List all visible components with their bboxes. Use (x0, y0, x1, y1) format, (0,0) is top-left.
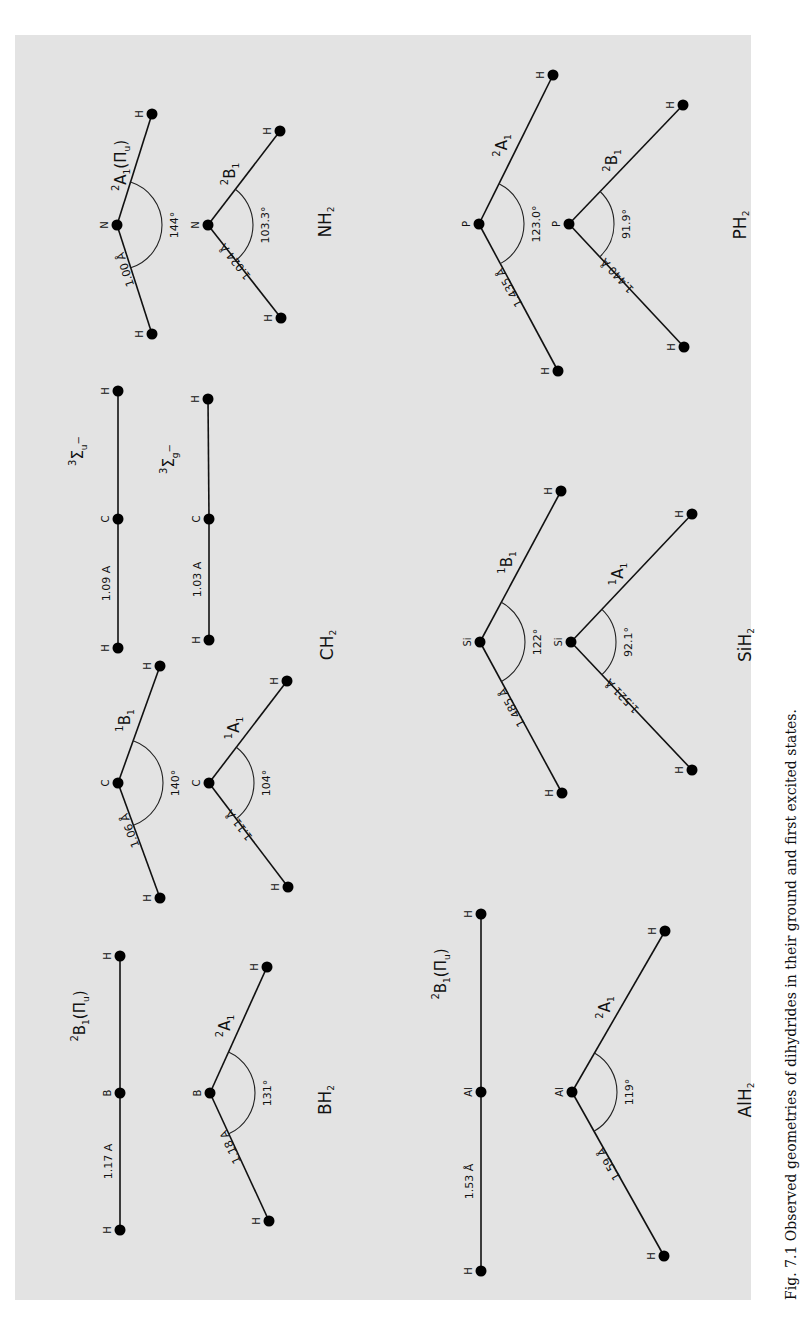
atom-dot (687, 509, 698, 520)
atom-label: H (674, 510, 685, 518)
bond-line (209, 681, 287, 783)
atom-dot (155, 661, 166, 672)
angle-value: 103.3° (259, 207, 272, 244)
molecule-ch2: HCHHCHHCH1.06 ÅHCH1.11 Å (100, 386, 294, 904)
atom-label: H (540, 367, 551, 375)
figure-caption: Fig. 7.1 Observed geometries of dihydrid… (783, 709, 799, 1300)
atom-dot (283, 882, 294, 893)
atom-dot (113, 643, 124, 654)
atom-label: H (544, 789, 555, 797)
state-symbol: 2A1 (593, 996, 616, 1018)
bond-length: 1.18 A (217, 1128, 244, 1166)
atom-dot (474, 219, 485, 230)
atom-label: H (142, 662, 153, 670)
angle-value: 140° (169, 770, 182, 797)
angle-value: 122° (531, 629, 544, 656)
atom-dot (476, 1087, 487, 1098)
atom-label: C (191, 779, 202, 786)
atom-label: H (647, 927, 658, 935)
atom-label: Si (462, 637, 473, 646)
atom-dot (264, 1216, 275, 1227)
molecule-sih2: HSiH1.485 ÅHSiH1.521 Å (462, 486, 698, 799)
state-ph2-0: HPH1.435 Å (461, 70, 564, 377)
atom-label: P (551, 221, 562, 227)
atom-label: H (463, 910, 474, 918)
angle-value: 104° (260, 770, 273, 797)
atom-dot (147, 329, 158, 340)
angle-arc (235, 189, 253, 260)
atom-dot (556, 486, 567, 497)
state-symbol: 1B1 (114, 709, 137, 731)
molecule-ph2: HPH1.435 ÅHPH1.440 Å (461, 70, 690, 377)
bond-line (480, 491, 561, 642)
atom-dot (204, 778, 215, 789)
angle-value: 92.1° (622, 627, 635, 657)
atom-dot (203, 220, 214, 231)
state-symbol: 1A1 (223, 717, 246, 739)
atom-label: H (134, 330, 145, 338)
atom-dot (564, 219, 575, 230)
state-symbol: 2A1 (213, 1015, 236, 1037)
angle-value: 119° (623, 1079, 636, 1106)
molecule-name: AlH2 (735, 1083, 756, 1118)
atom-dot (275, 126, 286, 137)
atom-dot (659, 1251, 670, 1262)
atom-label: H (191, 636, 202, 644)
bond-length: 1.06 Å (118, 811, 143, 849)
angle-arc (499, 184, 524, 264)
state-symbol: 3Σg− (158, 444, 181, 474)
atom-label: C (100, 515, 111, 522)
bond-line (571, 514, 692, 642)
bond-length: 1.09 A (100, 565, 113, 601)
atom-dot (112, 220, 123, 231)
atom-label: H (251, 1217, 262, 1225)
atom-label: H (100, 387, 111, 395)
atom-label: H (665, 101, 676, 109)
state-alh2-0: HAlH (463, 909, 487, 1277)
atom-label: C (100, 779, 111, 786)
atom-label: H (100, 644, 111, 652)
atom-label: Al (554, 1087, 565, 1097)
bond-length: 1.435 Å (493, 265, 525, 309)
state-symbol: 2A1(Πu) (109, 140, 132, 191)
bond-length: 1.03 A (191, 561, 204, 597)
molecule-name: BH2 (315, 1085, 336, 1115)
atom-dot (548, 70, 559, 81)
bond-line (208, 399, 209, 519)
atom-dot (205, 1088, 216, 1099)
atom-label: H (142, 894, 153, 902)
angle-value: 91.9° (620, 209, 633, 239)
atom-dot (276, 313, 287, 324)
angle-arc (133, 741, 163, 826)
atom-dot (113, 386, 124, 397)
angle-arc (229, 1052, 255, 1134)
atom-dot (567, 1087, 578, 1098)
bond-line (569, 105, 683, 224)
bond-length: 1.59 Å (594, 1145, 623, 1183)
angle-value: 123.0° (530, 206, 543, 243)
molecule-drawings: HNH1.00 ÅHNH1.024 Å144°2A1(Πu)103.3°2B1N… (67, 70, 757, 1277)
atom-dot (115, 1088, 126, 1099)
state-symbol: 3Σu− (67, 436, 90, 466)
bond-length: 1.440 Å (598, 255, 637, 295)
molecule-name: NH2 (315, 206, 336, 237)
bond-length: 1.17 A (102, 1143, 115, 1179)
atom-label: H (102, 1226, 113, 1234)
atom-dot (113, 778, 124, 789)
atom-dot (115, 1225, 126, 1236)
state-ch2-0: HCH (100, 386, 124, 654)
atom-dot (476, 909, 487, 920)
atom-dot (115, 951, 126, 962)
atom-label: Al (463, 1087, 474, 1097)
state-symbol: 2B1(Πu) (430, 948, 453, 999)
molecule-alh2: HAlHHAlH1.59 Å (463, 909, 671, 1277)
atom-label: P (461, 221, 472, 227)
atom-dot (262, 962, 273, 973)
state-symbol: 2B1 (219, 163, 242, 185)
atom-label: H (463, 1267, 474, 1275)
atom-label: C (191, 515, 202, 522)
state-ch2-1: HCH (190, 394, 215, 646)
state-symbol: 2B1(Πu) (69, 990, 92, 1041)
state-alh2-1: HAlH1.59 Å (554, 926, 671, 1262)
atom-label: H (190, 395, 201, 403)
